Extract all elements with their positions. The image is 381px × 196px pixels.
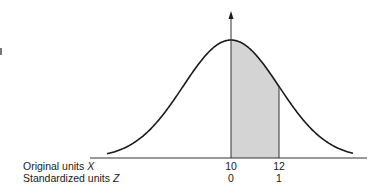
arrow-up-icon — [229, 11, 234, 19]
z-row-label-text: Standardized units — [23, 172, 110, 184]
x-row-label: Original units X — [23, 160, 94, 172]
x-variable: X — [87, 160, 94, 172]
z-row-label: Standardized units Z — [23, 172, 119, 184]
z-tick-0: 0 — [216, 172, 246, 184]
x-row-label-text: Original units — [23, 160, 84, 172]
x-tick-10: 10 — [216, 160, 246, 172]
shaded-area — [231, 40, 279, 158]
x-tick-12: 12 — [264, 160, 294, 172]
z-variable: Z — [113, 172, 119, 184]
normal-curve — [107, 40, 353, 154]
z-tick-1: 1 — [264, 172, 294, 184]
